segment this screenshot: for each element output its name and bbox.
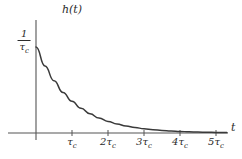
decay-curve xyxy=(36,47,227,133)
tick-tau-subscript: c xyxy=(220,142,224,150)
tau-subscript: c xyxy=(25,47,29,55)
x-tick-label: 3τc xyxy=(136,137,152,150)
fraction-denominator: τc xyxy=(18,42,31,55)
tick-tau-subscript: c xyxy=(148,142,152,150)
y-axis-peak-value-label: 1 τc xyxy=(18,29,31,55)
x-tick-label: τc xyxy=(67,137,76,150)
plot-canvas xyxy=(0,0,242,159)
x-tick-label: 5τc xyxy=(208,137,224,150)
tick-tau-subscript: c xyxy=(73,142,77,150)
x-tick-label: 4τc xyxy=(172,137,188,150)
y-axis-label: h(t) xyxy=(62,4,82,15)
x-tick-label: 2τc xyxy=(100,137,116,150)
fraction-numerator: 1 xyxy=(18,29,31,39)
tick-tau-subscript: c xyxy=(184,142,188,150)
x-axis-label: t xyxy=(231,122,235,133)
exponential-decay-figure: h(t) t 1 τc τc2τc3τc4τc5τc xyxy=(0,0,242,159)
tick-tau-subscript: c xyxy=(112,142,116,150)
